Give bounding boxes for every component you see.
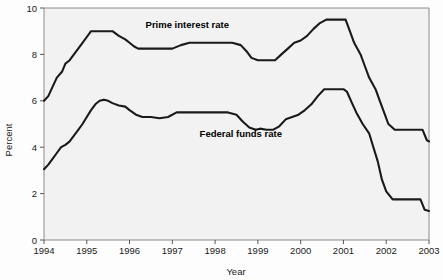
interest-rate-line-chart: 0246810 19941995199619971998199920002001… (0, 0, 443, 280)
x-tick-label: 1999 (247, 245, 268, 256)
y-axis-title: Percent (3, 123, 14, 156)
series-annotation-label: Federal funds rate (200, 128, 282, 139)
series-annotation-label: Prime interest rate (146, 19, 229, 30)
y-tick-label: 10 (26, 3, 37, 14)
y-tick-label: 6 (32, 95, 37, 106)
x-tick-label: 1997 (162, 245, 183, 256)
y-tick-label: 2 (32, 188, 37, 199)
x-tick-label: 1995 (76, 245, 97, 256)
plot-background-rect (44, 8, 429, 240)
x-tick-label: 1996 (119, 245, 140, 256)
y-tick-label: 4 (32, 142, 37, 153)
x-tick-label: 2003 (418, 245, 439, 256)
x-tick-label: 2002 (376, 245, 397, 256)
x-axis-title: Year (226, 266, 245, 277)
x-tick-label: 1994 (33, 245, 54, 256)
y-tick-label: 0 (32, 235, 37, 246)
x-tick-label: 1998 (205, 245, 226, 256)
plot-area-background (44, 8, 429, 240)
x-tick-label: 2001 (333, 245, 354, 256)
y-axis-tick-labels: 0246810 (26, 3, 44, 246)
chart-canvas: 0246810 19941995199619971998199920002001… (0, 0, 443, 280)
x-axis-tick-labels: 1994199519961997199819992000200120022003 (33, 240, 439, 256)
x-tick-label: 2000 (290, 245, 311, 256)
y-tick-label: 8 (32, 49, 37, 60)
